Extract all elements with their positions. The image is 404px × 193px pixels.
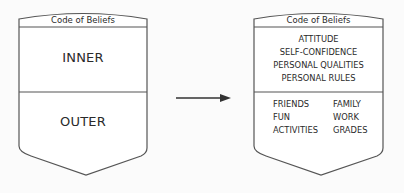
left-shield — [19, 14, 147, 176]
inner-items-list: ATTITUDE SELF-CONFIDENCE PERSONAL QUALIT… — [254, 33, 383, 85]
arrow-icon — [176, 94, 231, 102]
outer-left-list: FRIENDS FUN ACTIVITIES — [273, 98, 318, 137]
inner-item: PERSONAL RULES — [254, 72, 383, 85]
outer-item: FUN — [273, 111, 318, 124]
inner-item: ATTITUDE — [254, 33, 383, 46]
outer-right-list: FAMILY WORK GRADES — [333, 98, 367, 137]
inner-label: INNER — [19, 50, 147, 65]
left-shield-header: Code of Beliefs — [19, 15, 147, 25]
outer-item: GRADES — [333, 124, 367, 137]
outer-item: FAMILY — [333, 98, 367, 111]
inner-item: PERSONAL QUALITIES — [254, 59, 383, 72]
right-shield-header: Code of Beliefs — [254, 15, 383, 25]
outer-item: ACTIVITIES — [273, 124, 318, 137]
outer-item: FRIENDS — [273, 98, 318, 111]
diagram-shapes — [0, 0, 404, 193]
outer-label: OUTER — [19, 114, 147, 129]
outer-item: WORK — [333, 111, 367, 124]
inner-item: SELF-CONFIDENCE — [254, 46, 383, 59]
